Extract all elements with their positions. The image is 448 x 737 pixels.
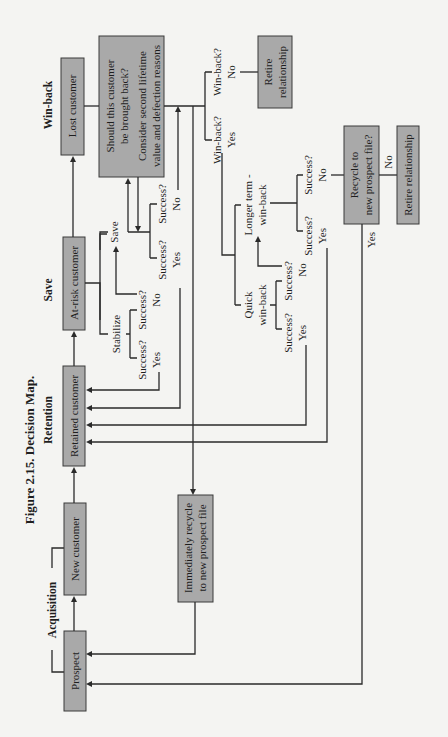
stabilize-yes-to-retained — [90, 372, 159, 390]
branch-longer-term-line2: win-back — [256, 184, 268, 225]
svg-text:Should this customer: Should this customer — [104, 59, 116, 152]
save-no-label: No — [170, 197, 182, 211]
svg-text:Recycle to: Recycle to — [348, 151, 360, 198]
box-retire-relationship-top: Retire relationship — [258, 36, 292, 108]
longer-bracket — [270, 175, 303, 231]
recycle-yes-to-prospect — [90, 224, 362, 684]
svg-text:Immediately recycle: Immediately recycle — [182, 503, 194, 593]
immediate-to-prospect — [90, 602, 195, 654]
tree-at-risk — [100, 232, 108, 334]
stabilize-success-no-label: Success? — [136, 290, 148, 330]
svg-text:value and defection reasons: value and defection reasons — [150, 45, 162, 167]
decision-map-diagram: Figure 2.15. Decision Map. Win-back Save… — [0, 0, 448, 737]
quick-bracket — [270, 281, 282, 329]
box-retire-relationship-bottom: Retire relationship — [397, 126, 419, 224]
stabilize-success-yes-label: Success? — [136, 340, 148, 380]
svg-text:At-risk customer: At-risk customer — [68, 246, 80, 321]
figure-title: Figure 2.15. Decision Map. — [22, 376, 37, 525]
longer-yes-label: Yes — [316, 228, 328, 244]
quick-yes-label: Yes — [296, 325, 308, 341]
stabilize-no-arrow — [116, 250, 137, 294]
box-retained-customer: Retained customer — [63, 366, 85, 466]
svg-text:New customer: New customer — [69, 517, 81, 581]
winback-no-q: Win-back? — [211, 48, 223, 96]
branch-quick-line1: Quick — [242, 291, 254, 318]
stage-label-retention: Retention — [42, 395, 54, 444]
box-new-customer: New customer — [64, 503, 86, 595]
box-recycle-to-prospect-file: Recycle to new prospect file? — [344, 126, 379, 224]
stage-label-save: Save — [42, 279, 54, 302]
stabilize-yes-label: Yes — [150, 352, 162, 368]
stabilize-no-label: No — [150, 293, 162, 307]
quick-no-label: No — [296, 263, 308, 277]
winback-no-label: No — [225, 65, 237, 79]
svg-text:be brought back?: be brought back? — [118, 68, 130, 144]
svg-text:Lost customer: Lost customer — [66, 74, 78, 137]
connector-at-risk-branch — [85, 234, 107, 320]
longer-success-no-q: Success? — [302, 155, 314, 195]
branch-save: Save — [108, 221, 120, 243]
svg-text:relationship: relationship — [276, 46, 288, 98]
branch-longer-term-line1: Longer term - — [242, 174, 254, 235]
svg-text:new prospect file?: new prospect file? — [362, 135, 374, 216]
quick-yes-to-retained — [90, 345, 306, 425]
box-lost-customer: Lost customer — [61, 58, 84, 155]
save-success-no-label: Success? — [156, 184, 168, 224]
stage-label-acquisition: Acquisition — [46, 581, 59, 638]
svg-text:Prospect: Prospect — [69, 652, 81, 690]
box-at-risk-customer: At-risk customer — [63, 237, 85, 330]
save-success-yes-label: Success? — [156, 240, 168, 280]
svg-text:Retire relationship: Retire relationship — [402, 134, 414, 216]
box-should-bring-back: Should this customer be brought back? Co… — [99, 36, 164, 177]
svg-text:Consider second lifetime: Consider second lifetime — [136, 51, 148, 161]
recycle-no-label: No — [382, 155, 394, 169]
stage-label-winback: Win-back — [42, 80, 54, 129]
box-immediately-recycle: Immediately recycle to new prospect file — [178, 495, 213, 602]
quick-success-yes-q: Success? — [282, 313, 294, 353]
branch-quick-line2: win-back — [256, 284, 268, 325]
winback-method-bracket — [235, 205, 241, 305]
quick-no-arrow — [258, 240, 282, 266]
svg-text:Retire: Retire — [262, 58, 274, 85]
box-prospect: Prospect — [64, 631, 86, 711]
longer-success-yes-q: Success? — [302, 216, 314, 256]
branch-stabilize: Stabilize — [110, 315, 122, 354]
winback-yes-label: Yes — [225, 132, 237, 148]
recycle-yes-label: Yes — [365, 232, 377, 248]
save-success-bracket — [128, 204, 157, 258]
svg-text:to new prospect file: to new prospect file — [196, 504, 208, 591]
winback-yes-q: Win-back? — [211, 116, 223, 164]
quick-success-no-q: Success? — [282, 261, 294, 301]
longer-no-label: No — [316, 168, 328, 182]
svg-text:Retained customer: Retained customer — [68, 375, 80, 458]
save-yes-label: Yes — [170, 252, 182, 268]
winback-yes-line — [222, 153, 235, 255]
